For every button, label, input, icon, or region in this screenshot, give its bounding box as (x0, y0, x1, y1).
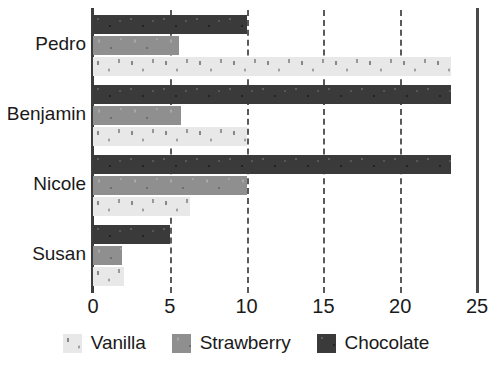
legend-label-vanilla: Vanilla (91, 332, 146, 354)
bar-pedro-vanilla (93, 57, 451, 76)
bar-chart: PedroBenjaminNicoleSusan 0510152025 Vani… (0, 0, 492, 368)
x-tick-10: 10 (235, 295, 257, 318)
legend-label-chocolate: Chocolate (345, 332, 430, 354)
strawberry-swatch (172, 334, 191, 353)
y-axis-label-nicole: Nicole (0, 173, 86, 195)
bar-nicole-strawberry (93, 176, 247, 195)
vanilla-swatch (63, 334, 82, 353)
y-axis-label-susan: Susan (0, 243, 86, 265)
chocolate-swatch (317, 334, 336, 353)
x-tick-25: 25 (466, 295, 488, 318)
bar-benjamin-strawberry (93, 106, 181, 125)
bars-layer (93, 10, 477, 290)
y-axis-label-pedro: Pedro (0, 33, 86, 55)
bar-pedro-strawberry (93, 36, 179, 55)
legend-item-strawberry[interactable]: Strawberry (172, 332, 291, 354)
bar-susan-strawberry (93, 246, 122, 265)
bar-susan-chocolate (93, 225, 170, 244)
bar-pedro-chocolate (93, 15, 247, 34)
x-tick-5: 5 (164, 295, 175, 318)
bar-nicole-vanilla (93, 197, 190, 216)
bar-benjamin-vanilla (93, 127, 247, 146)
legend-label-strawberry: Strawberry (200, 332, 291, 354)
chart-legend: VanillaStrawberryChocolate (0, 332, 492, 354)
bar-susan-vanilla (93, 267, 124, 286)
bar-nicole-chocolate (93, 155, 451, 174)
legend-item-vanilla[interactable]: Vanilla (63, 332, 146, 354)
x-tick-20: 20 (389, 295, 411, 318)
bar-benjamin-chocolate (93, 85, 451, 104)
y-axis-label-benjamin: Benjamin (0, 103, 86, 125)
x-tick-0: 0 (87, 295, 98, 318)
x-tick-15: 15 (312, 295, 334, 318)
legend-item-chocolate[interactable]: Chocolate (317, 332, 430, 354)
